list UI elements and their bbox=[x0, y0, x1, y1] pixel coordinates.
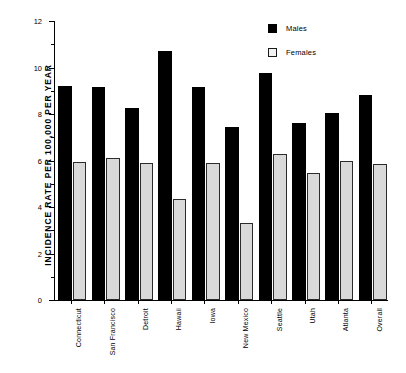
y-tick-label: 12 bbox=[34, 17, 42, 26]
x-axis-label: Connecticut bbox=[75, 308, 82, 347]
y-tick-label: 10 bbox=[34, 63, 42, 72]
bar-group bbox=[359, 21, 387, 300]
bar-male bbox=[192, 87, 206, 300]
bar-male bbox=[325, 113, 339, 300]
x-tick bbox=[238, 300, 239, 304]
x-tick bbox=[338, 300, 339, 304]
bar-group bbox=[125, 21, 153, 300]
bar-female bbox=[173, 199, 187, 300]
y-tick-minor bbox=[51, 44, 54, 45]
x-tick bbox=[71, 300, 72, 304]
y-tick-major: 10 bbox=[49, 68, 54, 69]
bar-group bbox=[192, 21, 220, 300]
bar-male bbox=[158, 51, 172, 300]
bar-female bbox=[373, 164, 387, 300]
bar-female bbox=[240, 223, 254, 300]
bar-group bbox=[58, 21, 86, 300]
x-axis-label: Atlanta bbox=[342, 308, 349, 331]
y-tick-label: 6 bbox=[38, 156, 42, 165]
y-tick-minor bbox=[51, 184, 54, 185]
bar-male bbox=[125, 108, 139, 300]
bar-group bbox=[92, 21, 120, 300]
bar-male bbox=[259, 73, 273, 300]
x-axis-label: Hawaii bbox=[175, 308, 182, 330]
bar-female bbox=[106, 158, 120, 300]
x-axis-label: Utah bbox=[309, 308, 316, 324]
x-axis-label: New Mexico bbox=[242, 308, 249, 348]
bar-female bbox=[340, 161, 354, 301]
x-tick bbox=[138, 300, 139, 304]
x-axis-label: Iowa bbox=[209, 308, 216, 324]
y-tick-major: 4 bbox=[49, 207, 54, 208]
bar-group bbox=[158, 21, 186, 300]
y-tick-minor bbox=[51, 91, 54, 92]
x-axis-label: Seattle bbox=[276, 308, 283, 331]
bar-group bbox=[292, 21, 320, 300]
x-axis-label: Detroit bbox=[142, 308, 149, 330]
bar-male bbox=[225, 127, 239, 300]
x-tick bbox=[171, 300, 172, 304]
bar-male bbox=[92, 87, 106, 300]
bar-female bbox=[140, 163, 154, 300]
y-tick-major: 2 bbox=[49, 254, 54, 255]
bar-group bbox=[325, 21, 353, 300]
bar-group bbox=[259, 21, 287, 300]
bar-male bbox=[292, 123, 306, 300]
bar-female bbox=[73, 162, 87, 300]
bar-female bbox=[206, 163, 220, 300]
y-axis-line bbox=[54, 21, 55, 300]
chart-figure: INCIDENCE RATE PER 100,000 PER YEAR Male… bbox=[0, 0, 406, 373]
x-axis-label: San Francisco bbox=[109, 308, 116, 355]
x-tick bbox=[271, 300, 272, 304]
y-tick-minor bbox=[51, 230, 54, 231]
y-tick-minor bbox=[51, 137, 54, 138]
y-tick-major: 6 bbox=[49, 161, 54, 162]
y-tick-label: 8 bbox=[38, 110, 42, 119]
x-axis-label: Overall bbox=[376, 308, 383, 332]
x-tick bbox=[204, 300, 205, 304]
y-tick-major: 8 bbox=[49, 114, 54, 115]
y-tick-label: 2 bbox=[38, 249, 42, 258]
bar-female bbox=[307, 173, 321, 300]
y-axis-title: INCIDENCE RATE PER 100,000 PER YEAR bbox=[43, 35, 53, 295]
bar-female bbox=[273, 154, 287, 300]
bar-group bbox=[225, 21, 253, 300]
plot-area: 024681012 ConnecticutSan FranciscoDetroi… bbox=[54, 21, 388, 300]
y-tick-major: 12 bbox=[49, 21, 54, 22]
bar-male bbox=[359, 95, 373, 300]
bar-male bbox=[58, 86, 72, 300]
y-tick-label: 0 bbox=[38, 296, 42, 305]
y-tick-major: 0 bbox=[49, 300, 54, 301]
y-tick-minor bbox=[51, 277, 54, 278]
x-tick bbox=[371, 300, 372, 304]
x-tick bbox=[305, 300, 306, 304]
x-tick bbox=[104, 300, 105, 304]
y-tick-label: 4 bbox=[38, 203, 42, 212]
